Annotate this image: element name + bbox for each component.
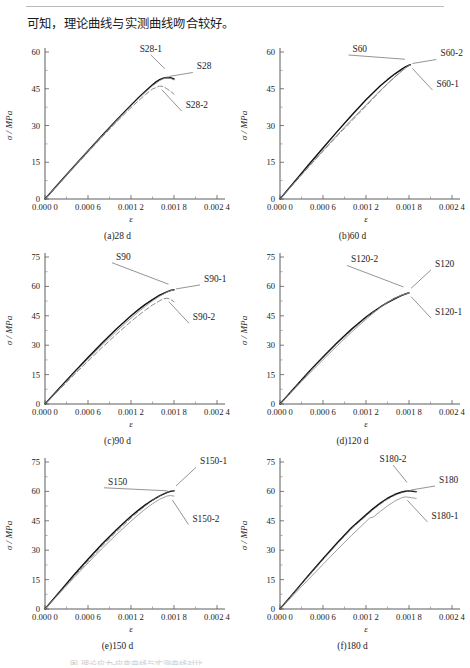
series-curve-S28-1 xyxy=(45,78,174,199)
series-label-S28: S28 xyxy=(197,61,212,71)
x-tick-label: 0.002 4 xyxy=(204,407,230,417)
panel-caption: (a)28 d xyxy=(104,231,131,242)
series-label-S90-1: S90-1 xyxy=(204,274,227,284)
panel-caption: (d)120 d xyxy=(336,436,368,447)
x-tick-label: 0.000 6 xyxy=(310,202,336,212)
chart-svg-a: 0153045600.000 00.000 60.001 20.001 80.0… xyxy=(0,40,235,245)
series-group xyxy=(45,490,174,609)
y-axis-title: σ / MPa xyxy=(239,520,249,550)
x-tick-label: 0.001 2 xyxy=(118,407,144,417)
series-label-S60-2: S60-2 xyxy=(440,48,463,58)
series-label-S150: S150 xyxy=(108,477,128,487)
x-tick-label: 0.002 4 xyxy=(439,612,465,622)
series-labels: S28S28-1S28-2 xyxy=(140,44,212,111)
panel-caption: (e)150 d xyxy=(102,641,134,652)
x-tick-label: 0.001 2 xyxy=(353,407,379,417)
series-curve-S60-1 xyxy=(280,65,410,199)
leader-line-S90-2 xyxy=(169,302,189,324)
y-tick-label: 75 xyxy=(31,252,40,262)
y-ticks: 01530456075 xyxy=(31,252,49,409)
axes-group xyxy=(45,253,225,404)
chart-svg-f: 015304560750.000 00.000 60.001 20.001 80… xyxy=(235,450,470,655)
series-group xyxy=(280,292,409,404)
series-curve-S28-2 xyxy=(45,86,174,199)
x-tick-label: 0.002 4 xyxy=(439,202,465,212)
series-label-S28-2: S28-2 xyxy=(186,100,209,110)
y-tick-label: 30 xyxy=(31,545,40,555)
x-tick-label: 0.002 4 xyxy=(439,407,465,417)
series-label-S180-1: S180-1 xyxy=(431,511,458,521)
leader-line-S120 xyxy=(411,270,431,289)
leader-line-S90 xyxy=(112,263,169,285)
leader-line-S28 xyxy=(169,72,193,76)
axes-group xyxy=(280,253,460,404)
x-ticks: 0.000 00.000 60.001 20.001 80.002 4 xyxy=(32,195,230,212)
x-tick-label: 0.001 2 xyxy=(353,612,379,622)
y-tick-label: 75 xyxy=(266,252,275,262)
x-ticks: 0.000 00.000 60.001 20.001 80.002 4 xyxy=(32,605,230,622)
leader-line-S120-2 xyxy=(347,265,404,287)
y-tick-label: 75 xyxy=(31,457,40,467)
x-axis-title: ε xyxy=(129,214,133,224)
x-tick-label: 0.000 6 xyxy=(310,612,336,622)
series-group xyxy=(45,77,174,199)
series-curve-S28 xyxy=(45,77,174,199)
axes-group xyxy=(45,458,225,609)
series-label-S28-1: S28-1 xyxy=(140,44,163,54)
leader-line-S60-1 xyxy=(412,68,432,90)
x-tick-label: 0.001 2 xyxy=(353,202,379,212)
x-tick-label: 0.000 0 xyxy=(267,407,293,417)
y-tick-label: 45 xyxy=(31,84,40,94)
chart-panel-c: 015304560750.000 00.000 60.001 20.001 80… xyxy=(0,245,235,450)
y-tick-label: 60 xyxy=(31,486,40,496)
x-tick-label: 0.002 4 xyxy=(204,612,230,622)
y-tick-label: 75 xyxy=(266,457,275,467)
leader-line-S60-2 xyxy=(412,59,436,63)
series-curve-S120-2 xyxy=(280,292,409,404)
x-axis-title: ε xyxy=(129,419,133,429)
series-label-S60: S60 xyxy=(352,44,367,54)
y-tick-label: 45 xyxy=(31,516,40,526)
y-tick-label: 60 xyxy=(266,281,275,291)
series-label-S60-1: S60-1 xyxy=(436,79,459,89)
series-curve-S150 xyxy=(45,491,174,609)
x-ticks: 0.000 00.000 60.001 20.001 80.002 4 xyxy=(267,195,465,212)
series-label-S90-2: S90-2 xyxy=(193,312,216,322)
series-labels: S90S90-1S90-2 xyxy=(112,252,227,323)
leader-line-S28-2 xyxy=(162,90,182,112)
x-tick-label: 0.001 8 xyxy=(396,407,422,417)
y-ticks: 01530456075 xyxy=(266,252,284,409)
chart-panel-a: 0153045600.000 00.000 60.001 20.001 80.0… xyxy=(0,40,235,245)
x-ticks: 0.000 00.000 60.001 20.001 80.002 4 xyxy=(267,605,465,622)
axes-group xyxy=(280,458,460,609)
series-curve-S90 xyxy=(45,290,174,404)
chart-panel-e: 015304560750.000 00.000 60.001 20.001 80… xyxy=(0,450,235,655)
y-tick-label: 15 xyxy=(266,157,275,167)
leader-line-S120-1 xyxy=(411,297,431,319)
chart-svg-d: 015304560750.000 00.000 60.001 20.001 80… xyxy=(235,245,470,450)
x-tick-label: 0.000 0 xyxy=(32,202,58,212)
series-label-S90: S90 xyxy=(116,252,131,262)
y-tick-label: 15 xyxy=(266,575,275,585)
leader-line-S180-1 xyxy=(407,500,427,522)
series-group xyxy=(280,491,416,609)
y-ticks: 01530456075 xyxy=(266,457,284,614)
y-ticks: 015304560 xyxy=(266,47,284,204)
axes-group xyxy=(280,48,460,199)
y-axis-title: σ / MPa xyxy=(4,110,14,140)
leader-line-S28-1 xyxy=(151,55,165,69)
series-curve-S90-1 xyxy=(45,290,174,404)
chart-panel-b: 0153045600.000 00.000 60.001 20.001 80.0… xyxy=(235,40,470,245)
series-curve-S180-1 xyxy=(280,497,416,609)
series-label-S180-2: S180-2 xyxy=(379,454,406,464)
x-axis-title: ε xyxy=(364,624,368,634)
series-curve-S90-2 xyxy=(45,298,174,404)
y-tick-label: 60 xyxy=(31,47,40,57)
x-tick-label: 0.001 8 xyxy=(396,612,422,622)
leader-line-S180 xyxy=(411,486,435,490)
leader-line-S150 xyxy=(104,488,168,491)
series-curve-S180-2 xyxy=(280,491,416,609)
leader-line-S150-2 xyxy=(172,500,188,525)
x-tick-label: 0.001 2 xyxy=(118,202,144,212)
figure-grid: 0153045600.000 00.000 60.001 20.001 80.0… xyxy=(0,40,470,655)
